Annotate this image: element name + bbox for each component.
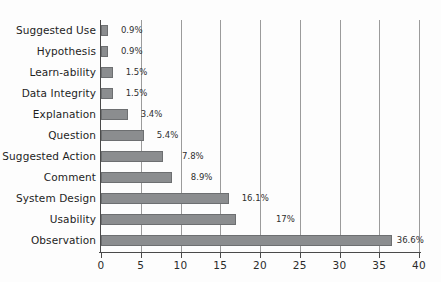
category-label-suggested-action: Suggested Action	[0, 146, 96, 167]
bar-row: Explanation3.4%	[0, 104, 441, 125]
bar-value-label: 7.8%	[182, 151, 204, 162]
category-label-explanation: Explanation	[0, 104, 96, 125]
bar-row: Learn-ability1.5%	[0, 62, 441, 83]
bar-row: Suggested Use0.9%	[0, 20, 441, 41]
bar-row: System Design16.1%	[0, 188, 441, 209]
category-label-data-integrity: Data Integrity	[0, 83, 96, 104]
category-label-question: Question	[0, 125, 96, 146]
bar-value-label: 1.5%	[126, 67, 148, 78]
bar-value-label: 3.4%	[141, 109, 163, 120]
bar	[101, 25, 108, 36]
category-label-system-design: System Design	[0, 188, 96, 209]
bar	[101, 214, 236, 225]
bar-row: Usability17%	[0, 209, 441, 230]
x-tick-mark-30	[340, 253, 341, 258]
x-tick-label-25: 25	[293, 259, 307, 271]
category-label-usability: Usability	[0, 209, 96, 230]
bar-value-label: 17%	[276, 214, 295, 225]
x-tick-mark-10	[181, 253, 182, 258]
bar	[101, 130, 144, 141]
x-tick-label-20: 20	[253, 259, 267, 271]
bar-value-label: 16.1%	[242, 193, 269, 204]
bar-row: Question5.4%	[0, 125, 441, 146]
x-tick-mark-5	[141, 253, 142, 258]
x-tick-mark-15	[220, 253, 221, 258]
x-tick-label-5: 5	[137, 259, 144, 271]
bar	[101, 88, 113, 99]
category-label-learn-ability: Learn-ability	[0, 62, 96, 83]
bar-row: Observation36.6%	[0, 230, 441, 251]
x-tick-mark-35	[379, 253, 380, 258]
x-tick-label-30: 30	[333, 259, 347, 271]
x-tick-mark-25	[300, 253, 301, 258]
bar	[101, 46, 108, 57]
bar-value-label: 1.5%	[126, 88, 148, 99]
category-label-observation: Observation	[0, 230, 96, 251]
category-label-hypothesis: Hypothesis	[0, 41, 96, 62]
x-tick-label-10: 10	[174, 259, 188, 271]
bar-chart: 0510152025303540 Suggested Use0.9%Hypoth…	[0, 0, 441, 282]
category-label-comment: Comment	[0, 167, 96, 188]
bar-value-label: 0.9%	[121, 25, 143, 36]
x-tick-mark-0	[101, 253, 102, 258]
bar	[101, 193, 229, 204]
bar	[101, 172, 172, 183]
category-label-suggested-use: Suggested Use	[0, 20, 96, 41]
x-tick-mark-20	[260, 253, 261, 258]
x-tick-label-15: 15	[213, 259, 227, 271]
bar-value-label: 36.6%	[397, 235, 424, 246]
x-tick-label-0: 0	[98, 259, 105, 271]
bar-row: Suggested Action7.8%	[0, 146, 441, 167]
bar-value-label: 5.4%	[157, 130, 179, 141]
bar-value-label: 0.9%	[121, 46, 143, 57]
x-tick-label-35: 35	[372, 259, 386, 271]
bar	[101, 67, 113, 78]
bar-value-label: 8.9%	[191, 172, 213, 183]
x-tick-mark-40	[419, 253, 420, 258]
bar	[101, 109, 128, 120]
bar-row: Hypothesis0.9%	[0, 41, 441, 62]
bar	[101, 151, 163, 162]
bar	[101, 235, 392, 246]
bar-row: Comment8.9%	[0, 167, 441, 188]
bar-row: Data Integrity1.5%	[0, 83, 441, 104]
x-tick-label-40: 40	[412, 259, 426, 271]
